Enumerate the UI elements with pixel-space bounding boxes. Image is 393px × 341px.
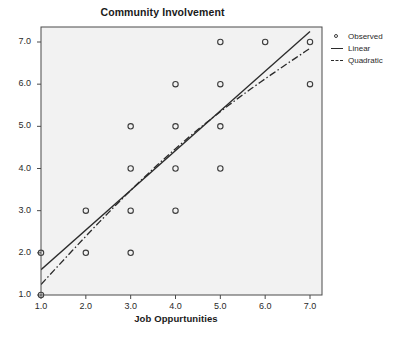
y-axis-tick-label: 6.0 <box>5 78 31 88</box>
legend-label: Linear <box>348 43 370 54</box>
x-axis-tick-label: 6.0 <box>250 301 280 311</box>
chart-container: Community Involvement 1.02.03.04.05.06.0… <box>0 0 393 341</box>
y-axis-tick-label: 7.0 <box>5 36 31 46</box>
plot-area-background <box>41 27 322 295</box>
legend-item[interactable]: Quadratic <box>330 55 392 66</box>
y-axis-tick-label: 5.0 <box>5 120 31 130</box>
legend-key-observed <box>330 31 344 42</box>
y-axis-tick-label: 2.0 <box>5 247 31 257</box>
legend-label: Observed <box>348 31 383 42</box>
x-axis-tick-label: 3.0 <box>116 301 146 311</box>
y-axis-tick-label: 1.0 <box>5 289 31 299</box>
legend-item[interactable]: Linear <box>330 43 392 54</box>
x-axis-tick-label: 5.0 <box>205 301 235 311</box>
x-axis-tick-label: 1.0 <box>26 301 56 311</box>
x-axis-tick-label: 2.0 <box>71 301 101 311</box>
legend-key-linear <box>330 43 344 54</box>
y-axis-tick-label: 3.0 <box>5 205 31 215</box>
chart-legend: ObservedLinearQuadratic <box>330 31 392 67</box>
x-axis-tick-label: 7.0 <box>295 301 325 311</box>
legend-label: Quadratic <box>348 55 383 66</box>
x-axis-tick-label: 4.0 <box>161 301 191 311</box>
solid-line-icon <box>331 48 343 49</box>
y-axis-tick-label: 4.0 <box>5 163 31 173</box>
legend-key-quadratic <box>330 55 344 66</box>
legend-item[interactable]: Observed <box>330 31 392 42</box>
circle-marker-icon <box>334 34 338 38</box>
x-axis-label: Job Oppurtunities <box>41 313 311 324</box>
dashdot-line-icon <box>331 60 343 61</box>
